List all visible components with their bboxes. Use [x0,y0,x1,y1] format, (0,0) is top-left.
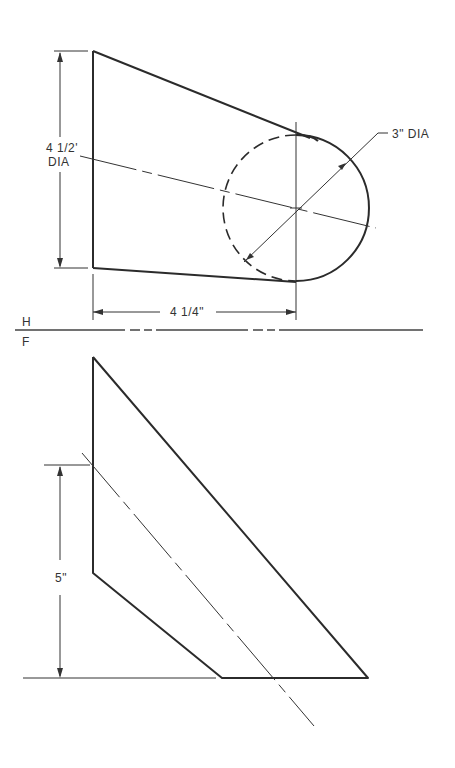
orthographic-drawing: 3" DIA 4 1/2' DIA 4 1/4" H F 5" [0,0,455,768]
height-arrow-top [57,52,63,62]
top-view-axis-centerline [80,156,376,228]
width-arrow-right [286,309,296,315]
front-height-dimension-label: 5" [55,571,67,585]
width-arrow-left [93,309,103,315]
top-view-upper-edge [93,51,310,138]
front-height-arrow-bottom [57,668,63,678]
width-dimension-label: 4 1/4" [170,305,204,319]
height-dimension-suffix: DIA [48,155,70,169]
reference-label-f: F [22,335,30,349]
front-view: 5" [23,357,368,726]
reference-label-h: H [22,315,31,329]
diameter-leader-line [244,133,378,262]
circle-hidden-arc [223,135,296,281]
front-view-outline [93,357,368,678]
height-arrow-bottom [57,258,63,268]
reference-line-group: H F [15,315,423,349]
circle-diameter-label: 3" DIA [392,127,429,141]
circle-tangent-top [296,135,318,141]
height-dimension-label: 4 1/2' [46,141,78,155]
front-height-arrow-top [57,466,63,476]
front-view-axis-centerline [82,453,314,726]
top-view: 3" DIA 4 1/2' DIA 4 1/4" [46,51,429,320]
diameter-arrow-upper [338,163,346,170]
circle-visible-arc [296,135,369,281]
